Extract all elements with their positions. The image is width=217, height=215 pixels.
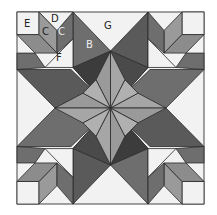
quilt-block-diagram: E D C C B F G (0, 0, 217, 215)
label-f: F (56, 52, 62, 63)
square-e-tr (182, 12, 204, 35)
label-b: B (86, 39, 93, 50)
label-e: E (24, 18, 30, 29)
label-c1: C (42, 26, 49, 37)
square-e-br (182, 181, 204, 204)
label-d: D (51, 13, 59, 24)
square-e-bl (17, 181, 39, 204)
label-c2: C (58, 26, 65, 37)
label-g: G (104, 20, 112, 31)
